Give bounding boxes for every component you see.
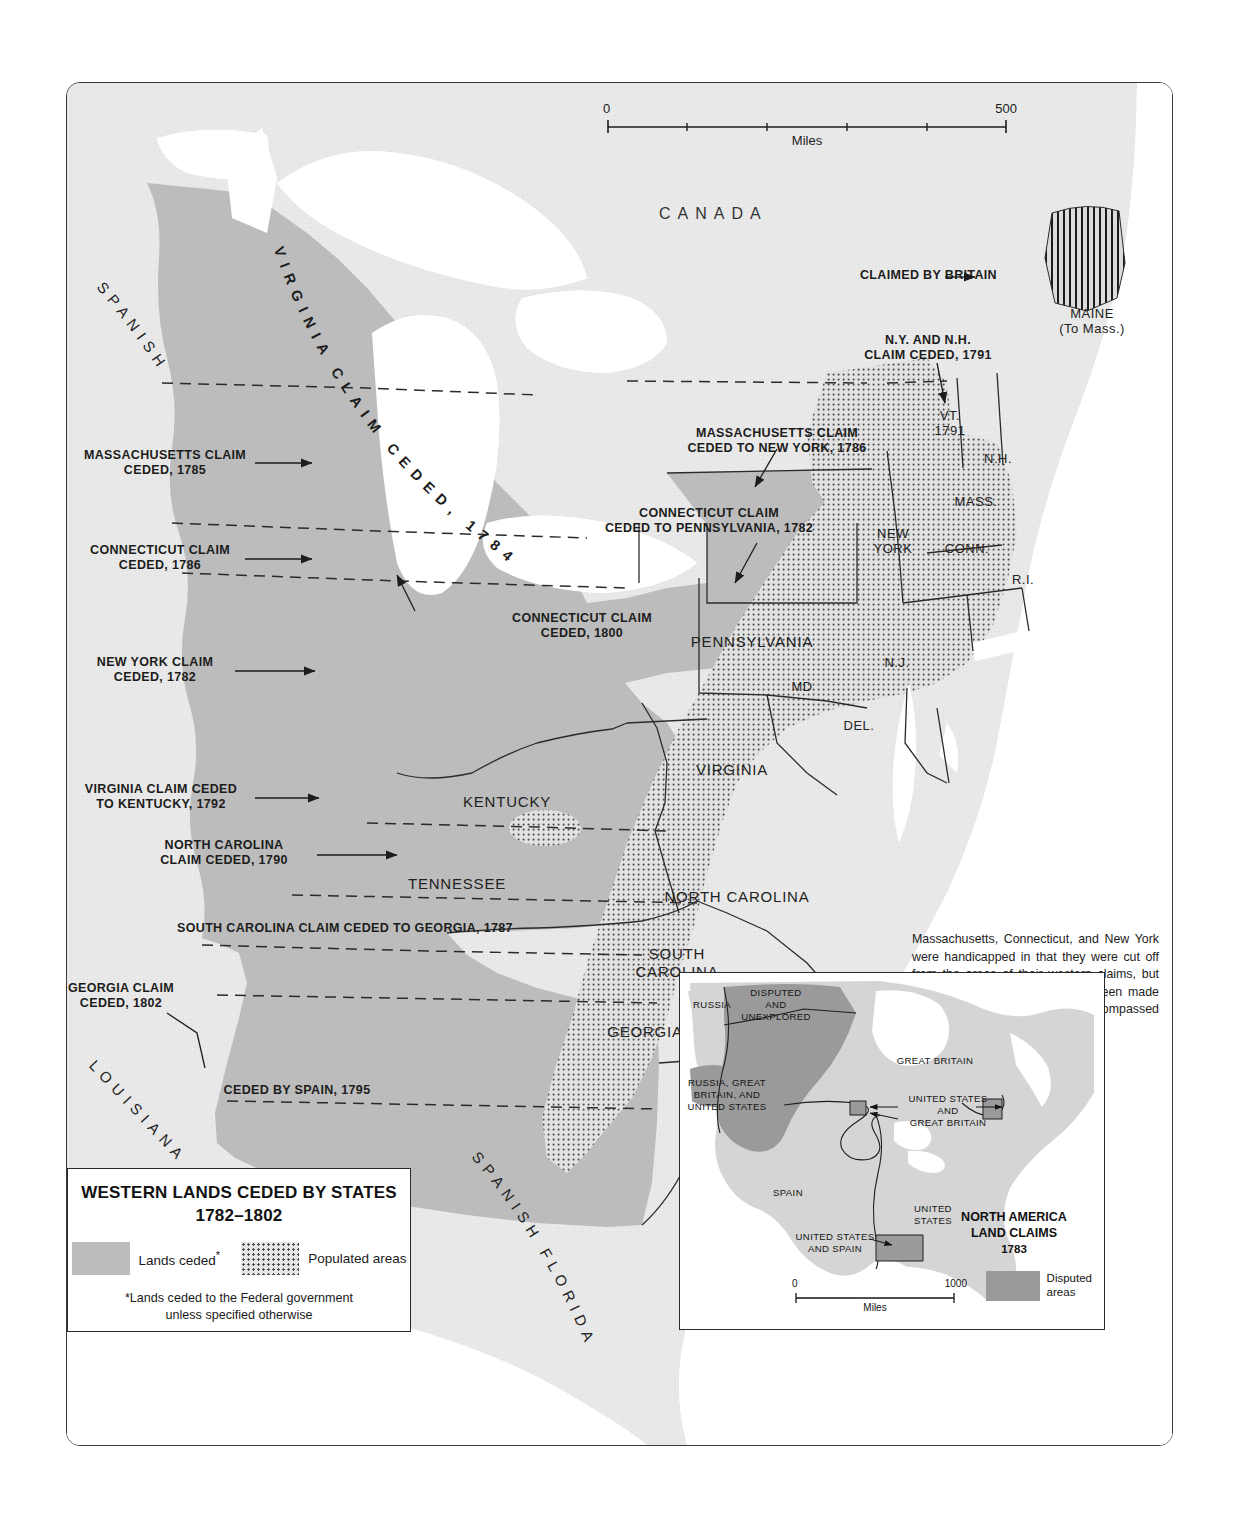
label-pennsylvania: PENNSYLVANIA <box>657 633 847 651</box>
inset-label-great-britain: GREAT BRITAIN <box>880 1055 990 1067</box>
annotation-connecticut-claim-ceded-to-pennsylvania-1782: CONNECTICUT CLAIM CEDED TO PENNSYLVANIA,… <box>564 506 854 536</box>
legend-swatch-populated <box>241 1242 299 1275</box>
legend-label-lands-ceded: Lands ceded* <box>139 1249 221 1268</box>
map-page: SPANISH LOUISIANA SPANISH FLORIDA VIRGIN… <box>0 0 1237 1526</box>
annotation-connecticut-claim-ceded-1786: CONNECTICUT CLAIM CEDED, 1786 <box>75 543 245 573</box>
label-tennessee: TENNESSEE <box>377 875 537 893</box>
annotation-connecticut-claim-ceded-1800: CONNECTICUT CLAIM CEDED, 1800 <box>487 611 677 641</box>
inset-legend-key: Disputed areas <box>986 1271 1092 1301</box>
annotation-massachusetts-claim-ceded-1785: MASSACHUSETTS CLAIM CEDED, 1785 <box>75 448 255 478</box>
inset-key-label-line2: areas <box>1047 1286 1092 1300</box>
label-virginia: VIRGINIA <box>662 761 802 779</box>
label-connecticut: CONN. <box>927 541 1007 556</box>
inset-title-year: 1783 <box>934 1242 1094 1257</box>
legend-footnote-line1: *Lands ceded to the Federal government <box>68 1290 410 1307</box>
inset-label-disputed-and-unexplored: DISPUTED AND UNEXPLORED <box>736 987 816 1023</box>
legend-swatch-lands-ceded <box>72 1242 130 1275</box>
legend-asterisk: * <box>216 1249 220 1261</box>
inset-key-label: Disputed areas <box>1047 1272 1092 1300</box>
annotation-claimed-by-britain: CLAIMED BY BRITAIN <box>817 268 997 283</box>
annotation-south-carolina-claim-ceded-to-georgia-1787: SOUTH CAROLINA CLAIM CEDED TO GEORGIA, 1… <box>177 921 547 936</box>
label-vermont: VT. 1791 <box>919 408 981 439</box>
label-new-hampshire: N.H. <box>967 451 1029 466</box>
legend-title-line1: WESTERN LANDS CEDED BY STATES <box>68 1183 410 1203</box>
legend-title-line2: 1782–1802 <box>68 1206 410 1226</box>
annotation-massachusetts-claim-ceded-to-new-york-1786: MASSACHUSETTS CLAIM CEDED TO NEW YORK, 1… <box>663 426 891 456</box>
scale-units-label: Miles <box>607 133 1007 148</box>
annotation-ny-and-nh-claim-ceded-1791: N.Y. AND N.H. CLAIM CEDED, 1791 <box>833 333 1023 363</box>
label-north-carolina: NORTH CAROLINA <box>627 888 847 906</box>
label-kentucky: KENTUCKY <box>437 793 577 811</box>
inset-label-spain: SPAIN <box>758 1187 818 1199</box>
label-new-york: NEW YORK <box>857 526 929 557</box>
label-new-jersey: N.J. <box>872 655 922 670</box>
legend-footnote: *Lands ceded to the Federal government u… <box>68 1290 410 1324</box>
inset-title-line1: NORTH AMERICA <box>934 1209 1094 1225</box>
inset-label-united-states-and-spain: UNITED STATES AND SPAIN <box>792 1231 878 1255</box>
scale-right-label: 500 <box>995 101 1017 116</box>
inset-scale-left-label: 0 <box>792 1278 798 1289</box>
inset-label-united-states-and-great-britain: UNITED STATES AND GREAT BRITAIN <box>898 1093 998 1129</box>
annotation-ceded-by-spain-1795: CEDED BY SPAIN, 1795 <box>177 1083 417 1098</box>
inset-title-line2: LAND CLAIMS <box>934 1225 1094 1241</box>
legend-label-lands-ceded-text: Lands ceded <box>139 1253 216 1268</box>
label-rhode-island: R.I. <box>997 572 1049 587</box>
inset-title: NORTH AMERICA LAND CLAIMS 1783 <box>934 1209 1094 1256</box>
inset-label-russia-great-britain-and-united-states: RUSSIA, GREAT BRITAIN, AND UNITED STATES <box>682 1077 772 1113</box>
inset-swatch-disputed <box>986 1271 1040 1301</box>
label-massachusetts: MASS. <box>933 494 1019 509</box>
annotation-georgia-claim-ceded-1802: GEORGIA CLAIM CEDED, 1802 <box>67 981 175 1011</box>
annotation-virginia-claim-ceded-to-kentucky-1792: VIRGINIA CLAIM CEDED TO KENTUCKY, 1792 <box>67 782 255 812</box>
label-maine: MAINE (To Mass.) <box>1032 306 1152 337</box>
label-maryland: MD <box>772 679 832 694</box>
label-delaware: DEL. <box>829 718 889 733</box>
scale-left-label: 0 <box>603 101 610 116</box>
legend-box: WESTERN LANDS CEDED BY STATES 1782–1802 … <box>67 1168 411 1332</box>
legend-keys-row: Lands ceded* Populated areas <box>68 1242 410 1275</box>
inset-map: RUSSIA DISPUTED AND UNEXPLORED RUSSIA, G… <box>679 972 1105 1330</box>
inset-scale-units-label: Miles <box>795 1302 955 1313</box>
scale-bar: 0 500 Miles <box>607 101 1007 153</box>
inset-scale-right-label: 1000 <box>945 1278 967 1289</box>
annotation-new-york-claim-ceded-1782: NEW YORK CLAIM CEDED, 1782 <box>75 655 235 685</box>
inset-label-russia: RUSSIA <box>684 999 740 1011</box>
inset-key-label-line1: Disputed <box>1047 1272 1092 1286</box>
label-canada: CANADA <box>659 205 768 224</box>
annotation-north-carolina-claim-ceded-1790: NORTH CAROLINA CLAIM CEDED, 1790 <box>131 838 317 868</box>
legend-label-populated: Populated areas <box>308 1251 406 1266</box>
legend-footnote-line2: unless specified otherwise <box>68 1307 410 1324</box>
